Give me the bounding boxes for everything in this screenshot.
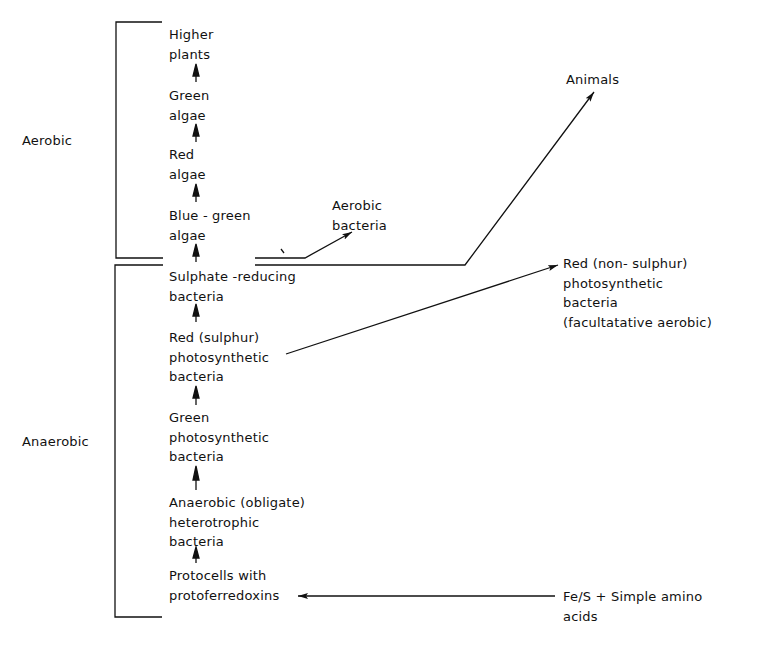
zone-label-anaerobic: Anaerobic bbox=[22, 432, 89, 452]
node-green-photosynthetic-bacteria: Green photosynthetic bacteria bbox=[169, 408, 269, 467]
aerobic-bracket bbox=[116, 22, 163, 258]
red-non-sulphur-connector bbox=[286, 265, 558, 354]
node-animals: Animals bbox=[566, 70, 619, 90]
animals-connector bbox=[255, 92, 594, 265]
anaerobic-bracket bbox=[115, 265, 163, 617]
node-higher-plants: Higher plants bbox=[169, 25, 213, 64]
node-aerobic-bacteria: Aerobic bacteria bbox=[332, 196, 387, 235]
chain-arrows bbox=[193, 64, 199, 563]
node-fe-s-amino-acids: Fe/S + Simple amino acids bbox=[563, 587, 702, 626]
node-sulphate-reducing-bacteria: Sulphate -reducing bacteria bbox=[169, 267, 296, 306]
node-red-non-sulphur-bacteria: Red (non- sulphur) photosynthetic bacter… bbox=[563, 254, 712, 332]
zone-label-aerobic: Aerobic bbox=[22, 131, 72, 151]
node-blue-green-algae: Blue - green algae bbox=[169, 206, 251, 245]
node-anaerobic-heterotrophic-bacteria: Anaerobic (obligate) heterotrophic bacte… bbox=[169, 493, 305, 552]
node-red-algae: Red algae bbox=[169, 145, 206, 184]
aerobic-bacteria-connector bbox=[255, 232, 352, 258]
node-protocells: Protocells with protoferredoxins bbox=[169, 566, 279, 605]
node-red-sulphur-photosynthetic-bacteria: Red (sulphur) photosynthetic bacteria bbox=[169, 328, 269, 387]
node-green-algae: Green algae bbox=[169, 86, 209, 125]
